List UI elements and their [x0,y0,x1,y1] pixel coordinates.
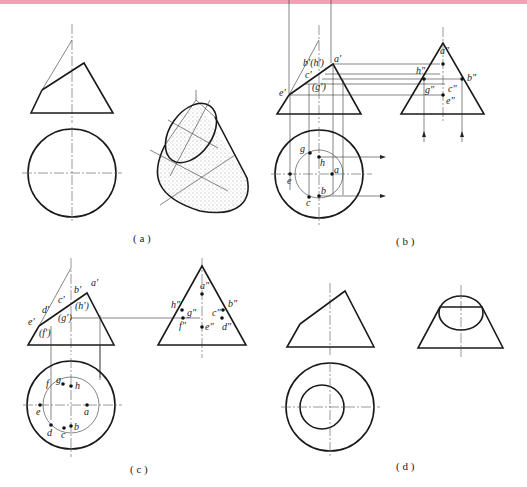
label-f-prime: (f') [39,327,51,339]
label-f-dprime: f" [179,320,187,331]
label-c-dprime: c" [212,307,221,318]
label-h: h [75,380,80,391]
panel-d: ( d ) [281,283,503,473]
label-d: d [47,427,53,438]
label-g-dprime: g" [187,307,197,318]
label-e-prime: e' [28,316,35,327]
caption-a: ( a ) [133,232,151,245]
label-h-dprime: h" [416,65,426,76]
label-a-prime: a' [334,53,342,64]
label-c: c [61,429,66,440]
label-g-prime: (g') [58,312,72,324]
label-a-prime: a' [91,277,99,288]
label-d-prime: d' [42,304,50,315]
label-g: g [56,374,61,385]
caption-c: ( c ) [130,463,148,476]
label-e-dprime: e" [205,321,214,332]
label-g: g [300,143,305,154]
panel-b: g h a e b c a' b'(h') c' (g') e' a" h" b… [271,0,484,248]
panel-c: a' b' c' d' (h') e' (g') (f') f g h e a … [23,258,246,476]
label-d-dprime: d" [222,321,232,332]
caption-b: ( b ) [396,235,415,248]
label-a: a [84,406,89,417]
label-h-prime: (h') [75,300,89,312]
label-b: b [74,421,79,432]
label-a-dprime: a" [200,280,210,291]
panel-a: ( a ) [22,24,248,245]
label-e-prime: e' [279,87,286,98]
label-b-dprime: b" [467,72,477,83]
label-c-prime: c' [305,69,312,80]
label-h-dprime: h" [171,299,181,310]
label-b-prime: b' [74,284,82,295]
label-b-dprime: b" [228,298,238,309]
label-e: e [287,175,292,186]
label-e-dprime: e" [446,95,455,106]
label-g-prime: (g') [312,81,326,93]
cone-section-drawing: ( a ) g h a e b [0,0,527,487]
label-h: h [320,157,325,168]
label-c: c [306,197,311,208]
label-g-dprime: g" [425,84,435,95]
label-c-prime: c' [58,294,65,305]
label-b: b [321,185,326,196]
label-b-prime-h-prime: b'(h') [303,57,325,69]
label-e: e [36,406,41,417]
label-c-dprime: c" [448,83,457,94]
caption-d: ( d ) [396,460,415,473]
label-a: a [334,164,339,175]
label-a-dprime: a" [440,45,450,56]
